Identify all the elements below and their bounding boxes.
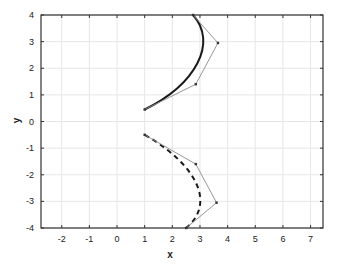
y-tick-label: 1 [29,90,34,100]
control-point-marker [143,108,145,110]
x-axis-label: x [167,249,173,260]
control-point-marker [143,134,145,136]
x-axis-ticks: -2-101234567 [58,15,313,244]
x-tick-label: 1 [142,234,147,244]
x-tick-label: 3 [197,234,202,244]
x-tick-label: -1 [85,234,93,244]
y-tick-label: -3 [26,196,34,206]
x-tick-label: 0 [115,234,120,244]
y-tick-label: 3 [29,37,34,47]
control-point-marker [217,42,219,44]
control-point-marker [195,163,197,165]
chart: -2-101234567 -4-3-2-101234 x y [0,0,338,267]
x-tick-label: -2 [58,234,66,244]
y-tick-label: 2 [29,63,34,73]
control-point-marker [195,83,197,85]
lower-control-polygon [145,135,217,228]
grid-lines [41,15,323,228]
y-tick-label: -1 [26,143,34,153]
control-point-marker [215,202,217,204]
y-tick-label: 4 [29,10,34,20]
x-tick-label: 4 [225,234,230,244]
x-tick-label: 5 [253,234,258,244]
y-tick-label: -2 [26,170,34,180]
x-tick-label: 6 [280,234,285,244]
y-tick-label: 0 [29,117,34,127]
x-tick-label: 2 [170,234,175,244]
x-tick-label: 7 [308,234,313,244]
y-tick-label: -4 [26,223,34,233]
y-axis-label: y [11,117,22,123]
